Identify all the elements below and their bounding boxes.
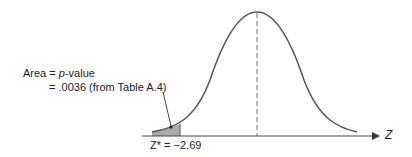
pointer-line <box>163 92 171 126</box>
axis-label: Z <box>385 128 392 142</box>
z-star-label: Z* = −2.69 <box>150 139 201 151</box>
pointer-dot <box>170 126 173 129</box>
shaded-tail-area <box>152 124 180 136</box>
area-label: Area = p-value <box>23 67 95 79</box>
pvalue-label: = .0036 (from Table A.4) <box>49 81 167 93</box>
axis-arrowhead <box>372 132 380 140</box>
normal-curve <box>152 12 357 132</box>
